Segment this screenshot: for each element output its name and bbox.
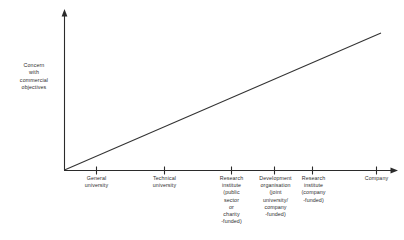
category-label-line: Research bbox=[290, 175, 337, 182]
category-label-line: General bbox=[66, 175, 127, 182]
category-label-line: company bbox=[250, 204, 301, 211]
x-axis-category-label-research-institute-company: Research institute (company -funded) bbox=[290, 175, 337, 204]
x-axis-category-label-company: Company bbox=[352, 175, 401, 182]
trend-line bbox=[65, 33, 382, 170]
category-label-line: -funded) bbox=[204, 218, 259, 225]
category-label-line: institute bbox=[290, 182, 337, 189]
x-axis-category-label-technical-university: Technical university bbox=[134, 175, 195, 189]
y-axis-label: Concern with commercial objectives bbox=[8, 62, 60, 91]
category-label-line: -funded) bbox=[290, 197, 337, 204]
category-label-line: university bbox=[66, 182, 127, 189]
y-axis-label-line: objectives bbox=[8, 84, 60, 91]
y-axis-label-line: Concern bbox=[8, 62, 60, 69]
category-label-line: -funded) bbox=[250, 211, 301, 218]
plot-area bbox=[0, 0, 404, 240]
x-axis-category-label-general-university: General university bbox=[66, 175, 127, 189]
category-label-line: Technical bbox=[134, 175, 195, 182]
category-label-line: university bbox=[134, 182, 195, 189]
y-axis-label-line: commercial bbox=[8, 77, 60, 84]
chart-figure: Concern with commercial objectives Gener… bbox=[0, 0, 404, 240]
x-axis-arrow-icon bbox=[391, 168, 399, 174]
y-axis-arrow-icon bbox=[62, 9, 68, 17]
y-axis-label-line: with bbox=[8, 69, 60, 76]
category-label-line: (company bbox=[290, 189, 337, 196]
category-label-line: Company bbox=[352, 175, 401, 182]
